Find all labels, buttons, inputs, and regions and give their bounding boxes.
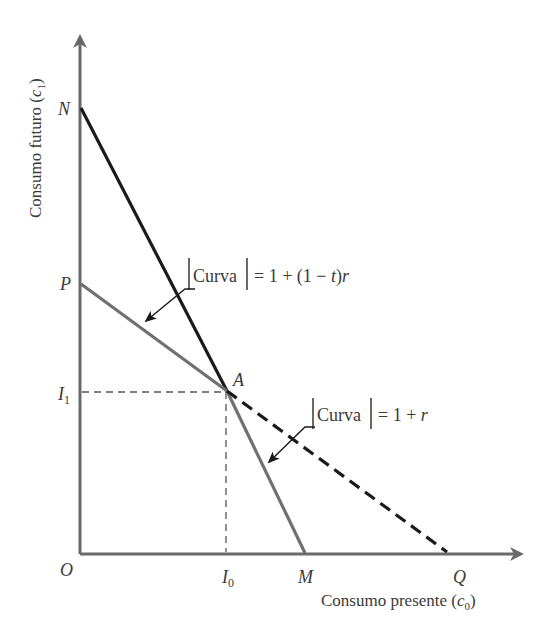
- intertemporal-budget-diagram: Curva = 1 + (1 − t)r Curva = 1 + r N P A…: [0, 0, 544, 634]
- label-I0: I0: [221, 567, 234, 590]
- lower-slope-expression: = 1 + r: [378, 405, 429, 425]
- y-axis-title: Consumo futuro (c1): [26, 78, 47, 218]
- label-P: P: [59, 274, 71, 294]
- lower-annotation-arrow: [269, 427, 315, 462]
- label-N: N: [57, 99, 71, 119]
- line-A-M: [227, 391, 305, 553]
- line-P-A: [81, 284, 227, 391]
- label-origin: O: [60, 560, 73, 580]
- upper-slope-expression: = 1 + (1 − t)r: [254, 266, 350, 287]
- line-N-A: [81, 108, 227, 391]
- lower-curva-text: Curva: [317, 405, 361, 425]
- label-A: A: [232, 370, 245, 390]
- label-M: M: [297, 567, 314, 587]
- label-Q: Q: [453, 567, 466, 587]
- upper-curva-text: Curva: [193, 266, 237, 286]
- label-I1: I1: [57, 384, 70, 407]
- x-axis-title: Consumo presente (c0): [321, 591, 476, 612]
